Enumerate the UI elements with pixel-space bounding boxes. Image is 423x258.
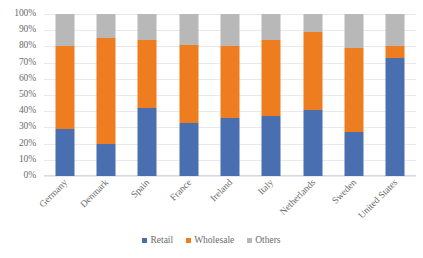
- bar-slot: [333, 14, 374, 176]
- y-axis-tick-label: 40%: [19, 106, 36, 116]
- bar-segment-retail[interactable]: [344, 132, 363, 176]
- bar-segment-retail[interactable]: [55, 129, 74, 176]
- bar-segment-wholesale[interactable]: [386, 46, 405, 57]
- x-axis-tick-label: Sweden: [331, 178, 359, 206]
- bar-segment-wholesale[interactable]: [344, 48, 363, 132]
- bar-slot: [85, 14, 126, 176]
- bar-slot: [44, 14, 85, 176]
- bar-slot: [168, 14, 209, 176]
- plot-area: [44, 14, 416, 176]
- x-axis-tick-label: Germany: [38, 178, 70, 210]
- x-axis-tick-label: Italy: [257, 178, 276, 197]
- y-axis-tick-label: 50%: [19, 90, 36, 100]
- stacked-bar[interactable]: [386, 14, 405, 176]
- bar-segment-wholesale[interactable]: [179, 45, 198, 123]
- bar-segment-others[interactable]: [55, 14, 74, 46]
- y-axis-tick-label: 100%: [14, 9, 36, 19]
- x-axis-tick-label: United States: [357, 178, 400, 221]
- x-axis-labels: GermanyDenmarkSpainFranceIrelandItalyNet…: [44, 176, 416, 236]
- bar-slot: [375, 14, 416, 176]
- bar-segment-retail[interactable]: [138, 108, 157, 176]
- stacked-bar[interactable]: [344, 14, 363, 176]
- stacked-bar-chart: 100%90%80%70%60%50%40%30%20%10%0% German…: [0, 0, 423, 258]
- bar-segment-others[interactable]: [303, 14, 322, 32]
- stacked-bar[interactable]: [96, 14, 115, 176]
- x-axis-tick-label: Denmark: [79, 178, 111, 210]
- x-axis-tick-label: Spain: [130, 178, 152, 200]
- bar-segment-retail[interactable]: [303, 110, 322, 176]
- y-axis-tick-label: 0%: [24, 171, 36, 181]
- bar-segment-wholesale[interactable]: [262, 40, 281, 116]
- bar-segment-others[interactable]: [138, 14, 157, 40]
- bar-slot: [292, 14, 333, 176]
- bar-segment-retail[interactable]: [386, 58, 405, 176]
- stacked-bar[interactable]: [138, 14, 157, 176]
- bar-slot: [209, 14, 250, 176]
- bar-segment-others[interactable]: [179, 14, 198, 45]
- y-axis-tick-label: 70%: [19, 58, 36, 68]
- y-axis: 100%90%80%70%60%50%40%30%20%10%0%: [0, 14, 40, 176]
- bar-segment-wholesale[interactable]: [138, 40, 157, 108]
- bar-segment-others[interactable]: [96, 14, 115, 38]
- y-axis-tick-label: 80%: [19, 42, 36, 52]
- bar-segment-wholesale[interactable]: [96, 38, 115, 143]
- y-axis-tick-label: 60%: [19, 74, 36, 84]
- legend-label: Others: [255, 236, 280, 246]
- stacked-bar[interactable]: [303, 14, 322, 176]
- legend-label: Retail: [150, 236, 173, 246]
- legend-item[interactable]: Others: [247, 236, 280, 246]
- y-axis-tick-label: 10%: [19, 155, 36, 165]
- chart-legend: RetailWholesaleOthers: [0, 236, 423, 246]
- stacked-bar[interactable]: [262, 14, 281, 176]
- bar-segment-others[interactable]: [344, 14, 363, 48]
- x-axis-tick-label: Ireland: [209, 178, 235, 204]
- stacked-bar[interactable]: [55, 14, 74, 176]
- bar-slot: [251, 14, 292, 176]
- x-axis-tick-label: Netherlands: [278, 178, 317, 217]
- x-axis-tick-label: France: [168, 178, 193, 203]
- legend-label: Wholesale: [194, 236, 234, 246]
- bar-segment-retail[interactable]: [179, 123, 198, 176]
- bar-segment-retail[interactable]: [262, 116, 281, 176]
- legend-item[interactable]: Retail: [142, 236, 173, 246]
- stacked-bar[interactable]: [179, 14, 198, 176]
- legend-swatch-icon: [186, 238, 191, 243]
- bar-segment-others[interactable]: [386, 14, 405, 46]
- bar-segment-retail[interactable]: [96, 144, 115, 176]
- bar-segment-retail[interactable]: [220, 118, 239, 176]
- legend-item[interactable]: Wholesale: [186, 236, 234, 246]
- bar-group: [44, 14, 416, 176]
- y-axis-tick-label: 90%: [19, 25, 36, 35]
- y-axis-tick-label: 30%: [19, 123, 36, 133]
- bar-segment-others[interactable]: [220, 14, 239, 46]
- y-axis-tick-label: 20%: [19, 139, 36, 149]
- legend-swatch-icon: [247, 238, 252, 243]
- bar-segment-others[interactable]: [262, 14, 281, 40]
- bar-slot: [127, 14, 168, 176]
- bar-segment-wholesale[interactable]: [303, 32, 322, 110]
- bar-segment-wholesale[interactable]: [55, 46, 74, 129]
- legend-swatch-icon: [142, 238, 147, 243]
- bar-segment-wholesale[interactable]: [220, 46, 239, 117]
- stacked-bar[interactable]: [220, 14, 239, 176]
